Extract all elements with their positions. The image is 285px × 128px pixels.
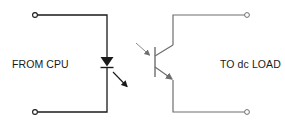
input-top-terminal[interactable]: [33, 13, 38, 18]
from-cpu-label: FROM CPU: [12, 58, 69, 70]
output-top-terminal[interactable]: [245, 13, 250, 18]
input-top-wire: [37, 15, 107, 57]
led-icon: [101, 57, 128, 87]
phototransistor-icon: [155, 45, 173, 79]
emitter-lead: [155, 67, 172, 79]
to-dc-load-label: TO dc LOAD: [220, 58, 281, 70]
collector-lead: [155, 45, 173, 56]
output-top-wire: [173, 15, 245, 45]
output-bottom-terminal[interactable]: [245, 110, 250, 115]
light-input-arrow-icon: [136, 43, 150, 55]
output-bottom-wire: [173, 80, 245, 112]
input-bottom-terminal[interactable]: [33, 110, 38, 115]
input-bottom-wire: [37, 68, 107, 113]
light-emission-arrow-icon: [113, 72, 127, 87]
